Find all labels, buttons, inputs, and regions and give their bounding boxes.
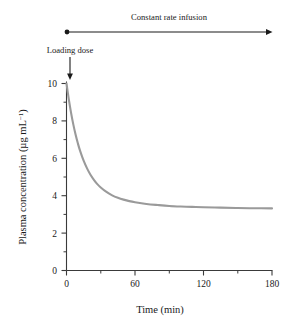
annotation-constant-rate-infusion: Constant rate infusion [65,12,273,35]
svg-text:Plasma concentration (µg mL−1: Plasma concentration (µg mL−1) [17,109,30,245]
y-tick-label-4: 4 [52,191,57,201]
x-tick-label-120: 120 [196,279,211,289]
y-axis-tick-labels: 0 2 4 6 8 10 [48,79,58,276]
y-axis-title: Plasma concentration (µg mL−1) [17,109,30,245]
x-axis-tick-labels: 0 60 120 180 [64,279,279,289]
x-axis-title: Time (min) [136,304,184,316]
y-tick-label-6: 6 [52,154,57,164]
y-tick-label-2: 2 [52,229,57,239]
constant-rate-infusion-start-dot [65,30,70,35]
x-tick-label-180: 180 [265,279,280,289]
constant-rate-infusion-arrowhead-icon [266,29,273,35]
loading-dose-arrowhead-icon [67,74,73,81]
axes [67,82,273,271]
plasma-concentration-curve [67,84,273,209]
x-tick-label-0: 0 [64,279,69,289]
figure-container: Constant rate infusion Loading dose [0,0,294,327]
y-axis-title-close: ) [17,109,29,113]
y-tick-label-10: 10 [48,79,58,89]
y-axis-title-main: Plasma concentration (µg mL [17,120,29,245]
constant-rate-infusion-label: Constant rate infusion [131,12,208,22]
annotation-loading-dose: Loading dose [47,45,94,80]
y-tick-label-0: 0 [52,266,57,276]
loading-dose-label: Loading dose [47,45,94,55]
y-tick-label-8: 8 [52,116,57,126]
x-tick-label-60: 60 [130,279,140,289]
plasma-concentration-chart: Constant rate infusion Loading dose [0,0,294,327]
